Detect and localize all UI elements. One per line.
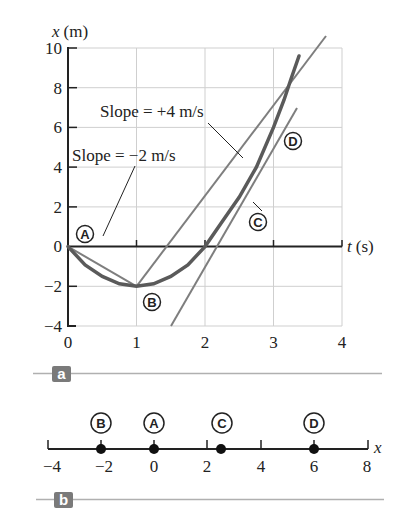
point-label-d: D [285,133,302,150]
nl-label-a: A [144,413,164,433]
dot-b [96,444,106,454]
panel-b-tag: b [36,491,384,508]
leader-lines [103,123,262,236]
nl-label-c: C [212,413,232,433]
y-tick: −2 [44,277,62,296]
svg-text:A: A [149,416,159,431]
number-line-ticks: −4 −2 0 2 4 6 8 [43,457,371,476]
svg-text:B: B [96,416,105,431]
t-tick: 1 [132,333,141,352]
svg-text:B: B [147,295,156,310]
number-line [48,440,368,454]
t-tick: 0 [64,333,73,352]
t-tick: 3 [269,333,278,352]
x-axis-title: t(s) [347,237,374,256]
grid [68,48,342,326]
nl-label-b: B [91,413,111,433]
nl-tick: 6 [310,457,319,476]
y-axis-title: x(m) [51,22,88,41]
figure: 10 8 6 4 2 0 −2 −4 0 1 2 3 4 x(m) t(s) [0,0,399,526]
svg-text:D: D [309,416,318,431]
slope-pos-label: Slope = +4 m/s [100,102,204,121]
svg-text:D: D [288,134,297,149]
position-curve [68,56,299,286]
svg-text:C: C [253,215,263,230]
svg-text:b: b [59,491,68,508]
point-label-b: B [144,294,161,311]
t-tick-labels: 0 1 2 3 4 [64,333,347,352]
nl-tick: 8 [363,457,372,476]
chord-ab [68,247,137,287]
panel-a-tag: a [33,365,382,382]
dot-c [216,444,226,454]
nl-tick: 4 [257,457,266,476]
dot-a [149,444,159,454]
svg-text:a: a [57,365,66,382]
t-tick: 4 [338,333,347,352]
y-tick-labels: 10 8 6 4 2 0 −2 −4 [44,39,63,336]
point-label-a: A [77,226,94,243]
y-tick: 6 [54,118,63,137]
y-tick: −4 [44,317,63,336]
nl-tick: 0 [150,457,159,476]
chords [68,36,326,326]
number-line-label: x [373,438,382,457]
nl-tick: −2 [95,457,113,476]
point-label-c: C [250,214,267,231]
slope-neg-label: Slope = −2 m/s [72,146,176,165]
nl-tick: 2 [203,457,212,476]
nl-tick: −4 [43,457,62,476]
dot-d [309,444,319,454]
nl-label-d: D [304,413,324,433]
svg-text:A: A [80,227,90,242]
y-tick: 0 [54,237,63,256]
t-tick: 2 [201,333,210,352]
y-tick: 8 [54,79,63,98]
y-tick: 10 [45,39,62,58]
y-tick: 4 [54,158,63,177]
svg-text:C: C [217,416,227,431]
y-tick: 2 [54,198,63,217]
